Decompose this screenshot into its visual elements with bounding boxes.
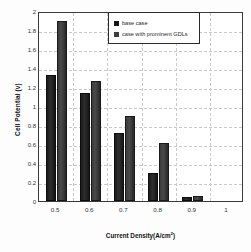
y-axis-tick-labels: 00.20.40.60.811.21.41.61.82 [12, 12, 36, 202]
chart-figure: Cell Potential (v) 00.20.40.60.811.21.41… [0, 0, 251, 252]
bar [114, 133, 124, 201]
legend-item-prominent-gdls: case with prominent GDLs [114, 32, 195, 38]
chart-legend: base case case with prominent GDLs [108, 12, 200, 44]
x-tick-label: 0.8 [143, 206, 173, 213]
y-tick-label: 1.2 [12, 85, 36, 91]
y-tick-label: 0.4 [12, 161, 36, 167]
x-tick-label: 0.9 [177, 206, 207, 213]
y-tick-label: 1.6 [12, 47, 36, 53]
x-axis-title-tail: ) [173, 232, 175, 239]
bar [46, 75, 56, 201]
y-tick-label: 0 [12, 199, 36, 205]
x-tick-label: 0.6 [74, 206, 104, 213]
y-tick-label: 0.2 [12, 180, 36, 186]
x-tick-label: 0.7 [108, 206, 138, 213]
x-tick-label: 1 [211, 206, 241, 213]
y-tick-label: 1.4 [12, 66, 36, 72]
y-tick-label: 1.8 [12, 28, 36, 34]
bar [91, 81, 101, 201]
bar [125, 116, 135, 202]
bar [148, 173, 158, 201]
x-axis-tick-labels: 0.50.60.70.80.91 [38, 206, 243, 220]
x-axis-title-main: Current Density(A/cm [106, 232, 171, 239]
x-axis-title: Current Density(A/cm2) [38, 231, 243, 239]
legend-label: base case [122, 21, 148, 27]
legend-label: case with prominent GDLs [122, 32, 188, 38]
y-tick-label: 1 [12, 104, 36, 110]
bar [159, 143, 169, 201]
bar [80, 93, 90, 201]
bar [182, 197, 192, 201]
bar [193, 196, 203, 201]
legend-swatch-icon [114, 21, 119, 26]
legend-item-base-case: base case [114, 21, 195, 27]
y-tick-label: 0.8 [12, 123, 36, 129]
y-tick-label: 2 [12, 9, 36, 15]
y-tick-label: 0.6 [12, 142, 36, 148]
x-tick-label: 0.5 [40, 206, 70, 213]
bar [57, 21, 67, 201]
legend-swatch-icon [114, 32, 119, 37]
